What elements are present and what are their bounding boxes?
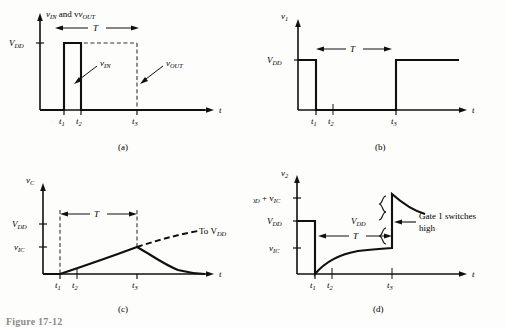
panel-a-xtick-label-t2: t2 (76, 116, 83, 127)
panel-d-brace-upper (379, 196, 386, 212)
panel-b-xtick-label-t1: t1 (311, 116, 317, 127)
panel-a-ytick-label-vdd: VDD (9, 38, 24, 49)
panel-c-y-axis-title: vC (26, 175, 35, 186)
panel-b-interval-arrow-right (384, 47, 392, 52)
panel-c-ytick-label-vdd: VDD (12, 219, 27, 230)
panel-a-x-arrow (206, 107, 214, 113)
panel-a-y-axis-title: vIN and vvOUT (46, 9, 96, 20)
figure-caption: Figure 17-12 (6, 316, 62, 327)
panel-b-x-axis-title: t (472, 105, 475, 115)
panel-d-xtick-label-t3: t3 (387, 280, 393, 291)
panel-d-xtick-label-t2: t2 (327, 280, 334, 291)
panel-d-x-arrow (459, 271, 467, 277)
panel-c-x-axis-title: t (219, 269, 222, 279)
panel-b: v1 t VDD T t1 (253, 0, 506, 162)
panel-d-y-axis-title: v2 (281, 168, 289, 179)
panel-a-interval-arrow-left (55, 26, 63, 31)
panel-c-y-arrow (40, 183, 46, 191)
panel-b-y-arrow (295, 19, 301, 27)
panel-c-xtick-label-t3: t3 (132, 280, 138, 291)
panel-b-xtick-label-t2: t2 (328, 116, 335, 127)
panel-b-y-axis-title: v1 (281, 11, 288, 22)
panel-d-x-axis-title: t (472, 269, 475, 279)
panel-d: v2 t VDD + vIC VDD vIC (253, 162, 506, 324)
panel-b-v1-waveform (298, 60, 459, 110)
panel-a-xtick-label-t1: t1 (59, 116, 65, 127)
panel-a-annotation-vout: vOUT (166, 58, 183, 69)
panel-a-tag: (a) (118, 142, 128, 152)
panel-d-y-arrow (294, 175, 300, 183)
panel-a: vIN and vvOUT t VDD T (0, 0, 253, 162)
panel-a-plot: vIN and vvOUT t VDD T (0, 0, 253, 162)
panel-d-ytick-label-vdd-plus-vic: VDD + vIC (253, 193, 281, 204)
panel-b-xtick-label-t3: t3 (391, 116, 397, 127)
panel-d-tag: (d) (373, 304, 384, 314)
panel-c-vc-waveform (43, 247, 205, 274)
panel-b-ytick-label-vdd: VDD (267, 55, 282, 66)
panel-c-xtick-label-t2: t2 (72, 280, 79, 291)
panel-b-tag: (b) (375, 142, 386, 152)
panel-a-annotation-vin: vIN (100, 58, 111, 69)
panel-a-xtick-label-t3: t3 (132, 116, 138, 127)
panel-d-brace-mid (379, 212, 386, 220)
panel-a-y-arrow (37, 13, 43, 21)
panel-a-vin-waveform (40, 43, 205, 110)
panel-b-plot: v1 t VDD T t1 (253, 0, 506, 162)
panel-d-ytick-label-vdd: VDD (267, 216, 282, 227)
panel-d-interval-arrow-right (384, 234, 392, 239)
panel-d-plot: v2 t VDD + vIC VDD vIC (253, 162, 506, 324)
panel-c-tag: (c) (118, 304, 128, 314)
panel-b-x-arrow (459, 107, 467, 113)
panel-a-interval-arrow-right (131, 26, 139, 31)
panel-d-annotation-gate-line1: Gate 1 switches (419, 211, 476, 221)
panel-c-plot: vC t VDD vIC To VDD (0, 162, 253, 324)
panel-c-annotation-to-vdd: To VDD (199, 226, 227, 237)
panel-c-xtick-label-t1: t1 (55, 280, 61, 291)
panel-d-ytick-label-vic: vIC (269, 243, 280, 254)
panel-c-interval-arrow-right (129, 212, 137, 217)
panel-c-x-arrow (206, 271, 214, 277)
panel-a-x-axis-title: t (219, 105, 222, 115)
panel-c: vC t VDD vIC To VDD (0, 162, 253, 324)
panel-c-ytick-label-vic: vIC (14, 242, 25, 253)
panel-d-xtick-label-t1: t1 (310, 280, 316, 291)
panel-c-to-vdd-dashed (137, 231, 198, 247)
panel-d-gate-arrowhead (394, 220, 402, 225)
panel-d-interval-arrow-left (318, 234, 326, 239)
panel-b-interval-arrow-left (316, 47, 324, 52)
panel-c-interval-arrow-left (60, 212, 68, 217)
panel-d-annotation-gate-line2: high (419, 223, 436, 233)
